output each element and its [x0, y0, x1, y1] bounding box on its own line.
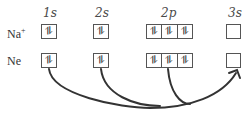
arrow-1s-to-3s [49, 69, 236, 108]
arrow-2s-to-3s [101, 69, 160, 106]
excitation-arrows [0, 0, 248, 114]
arrow-2p-to-3s [168, 69, 190, 104]
